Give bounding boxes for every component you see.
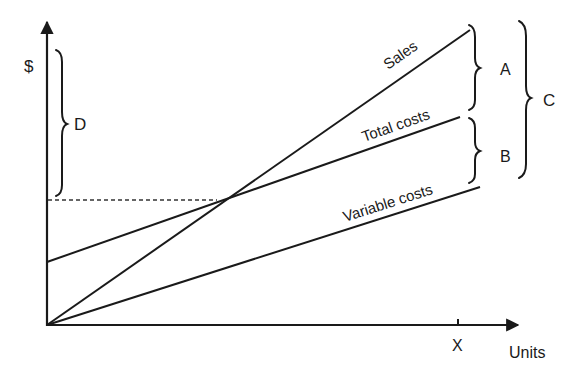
y-axis-label: $ (24, 57, 34, 76)
x-axis-label: Units (509, 344, 545, 361)
brace-d-label: D (74, 115, 86, 134)
sales-label: Sales (380, 37, 421, 72)
variable-costs-label: Variable costs (341, 180, 435, 225)
break-even-diagram: Sales Total costs Variable costs D A B C… (0, 0, 570, 372)
x-marker-label: X (452, 337, 463, 354)
brace-c-label: C (543, 91, 555, 110)
brace-a (469, 25, 480, 110)
sales-line (47, 30, 470, 325)
variable-costs-line (47, 187, 480, 325)
brace-d (56, 50, 67, 196)
brace-a-label: A (500, 61, 511, 78)
brace-b-label: B (500, 148, 511, 165)
brace-b (469, 118, 480, 183)
brace-c (519, 21, 531, 178)
